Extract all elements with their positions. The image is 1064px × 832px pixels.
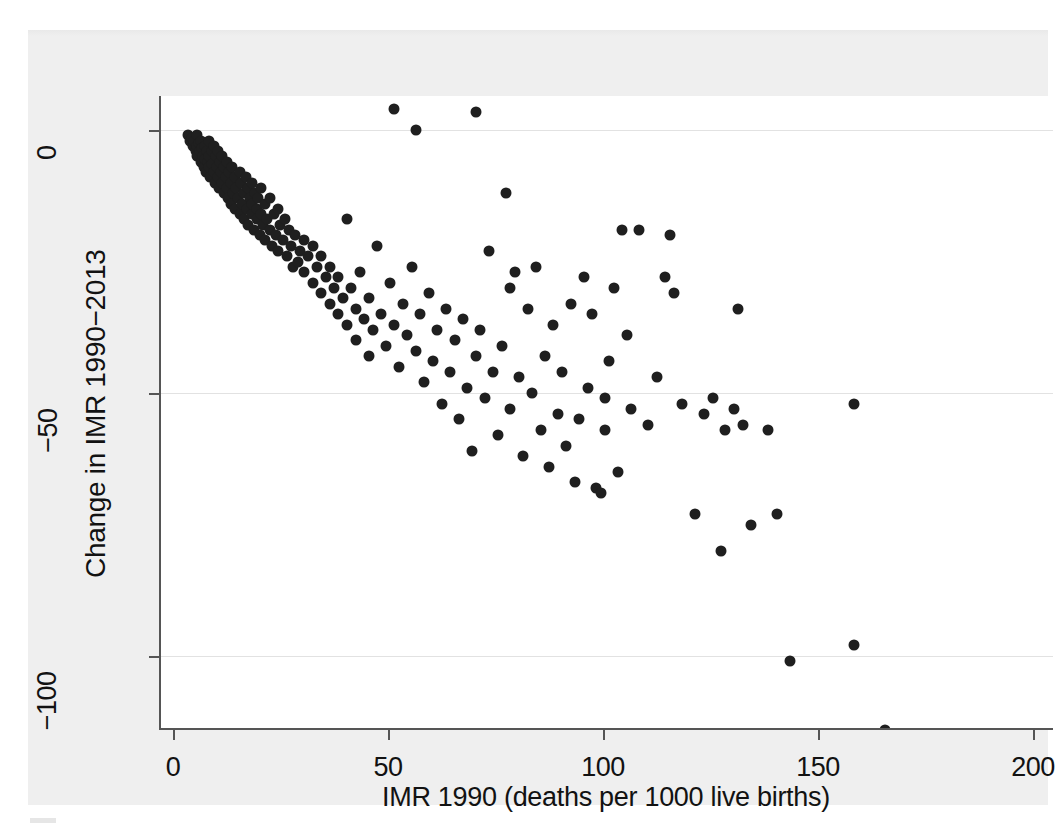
x-tick-label-1: 50 <box>373 752 402 783</box>
data-point <box>281 251 292 262</box>
data-point <box>720 424 731 435</box>
data-point <box>453 414 464 425</box>
x-tick-label-3: 150 <box>796 752 840 783</box>
data-point <box>664 230 675 241</box>
data-point <box>784 656 795 667</box>
data-point <box>707 393 718 404</box>
data-point <box>539 351 550 362</box>
data-point <box>505 403 516 414</box>
data-point <box>393 361 404 372</box>
data-point <box>849 398 860 409</box>
data-point <box>279 214 290 225</box>
data-point <box>346 282 357 293</box>
data-point <box>307 277 318 288</box>
data-point <box>557 366 568 377</box>
data-point <box>363 293 374 304</box>
data-point <box>329 282 340 293</box>
data-point <box>449 335 460 346</box>
data-point <box>737 419 748 430</box>
data-point <box>458 314 469 325</box>
data-point <box>428 356 439 367</box>
data-point <box>324 298 335 309</box>
data-point <box>471 106 482 117</box>
data-point <box>518 451 529 462</box>
data-point <box>612 466 623 477</box>
data-point <box>595 487 606 498</box>
data-point <box>432 324 443 335</box>
data-point <box>544 461 555 472</box>
data-point <box>505 282 516 293</box>
data-point <box>445 366 456 377</box>
x-tick-label-0: 0 <box>166 752 181 783</box>
data-point <box>763 424 774 435</box>
data-point <box>292 256 303 267</box>
data-point <box>389 103 400 114</box>
data-point <box>471 351 482 362</box>
data-point <box>849 640 860 651</box>
data-point <box>772 508 783 519</box>
data-point <box>367 324 378 335</box>
data-point <box>698 409 709 420</box>
data-point <box>350 335 361 346</box>
data-point <box>342 319 353 330</box>
data-point <box>333 272 344 283</box>
data-point <box>552 409 563 420</box>
data-point <box>307 240 318 251</box>
gridline-y-0 <box>161 130 1053 131</box>
data-point <box>324 261 335 272</box>
data-point <box>582 382 593 393</box>
data-point <box>531 261 542 272</box>
data-point <box>410 345 421 356</box>
data-point <box>548 319 559 330</box>
plot-area <box>159 96 1053 730</box>
data-point <box>419 377 430 388</box>
data-point <box>397 298 408 309</box>
data-point <box>372 240 383 251</box>
data-point <box>363 351 374 362</box>
data-point <box>415 309 426 320</box>
data-point <box>389 319 400 330</box>
data-point <box>436 398 447 409</box>
x-tick-label-4: 200 <box>1011 752 1055 783</box>
data-point <box>604 356 615 367</box>
data-point <box>690 508 701 519</box>
data-point <box>514 372 525 383</box>
data-point <box>716 545 727 556</box>
y-axis: 0−50−100 <box>28 96 159 730</box>
scan-artifact <box>30 818 56 823</box>
data-point <box>643 419 654 430</box>
data-point <box>608 282 619 293</box>
x-tick-0 <box>173 730 175 740</box>
data-point <box>380 340 391 351</box>
data-point <box>385 277 396 288</box>
data-point <box>668 288 679 299</box>
data-point <box>569 477 580 488</box>
data-point <box>879 724 890 728</box>
data-point <box>483 245 494 256</box>
data-point <box>303 251 314 262</box>
data-point <box>651 372 662 383</box>
plot-canvas <box>161 96 1053 728</box>
data-point <box>406 261 417 272</box>
x-tick-3 <box>818 730 820 740</box>
data-point <box>634 224 645 235</box>
data-point <box>316 251 327 262</box>
data-point <box>337 293 348 304</box>
data-point <box>600 393 611 404</box>
data-point <box>462 382 473 393</box>
data-point <box>526 388 537 399</box>
data-point <box>376 309 387 320</box>
data-point <box>475 324 486 335</box>
data-point <box>587 309 598 320</box>
data-point <box>488 366 499 377</box>
y-tick-1 <box>149 393 159 395</box>
data-point <box>565 298 576 309</box>
data-point <box>342 214 353 225</box>
x-tick-4 <box>1033 730 1035 740</box>
data-point <box>350 303 361 314</box>
data-point <box>660 272 671 283</box>
data-point <box>677 398 688 409</box>
data-point <box>625 403 636 414</box>
data-point <box>256 182 267 193</box>
data-point <box>492 430 503 441</box>
